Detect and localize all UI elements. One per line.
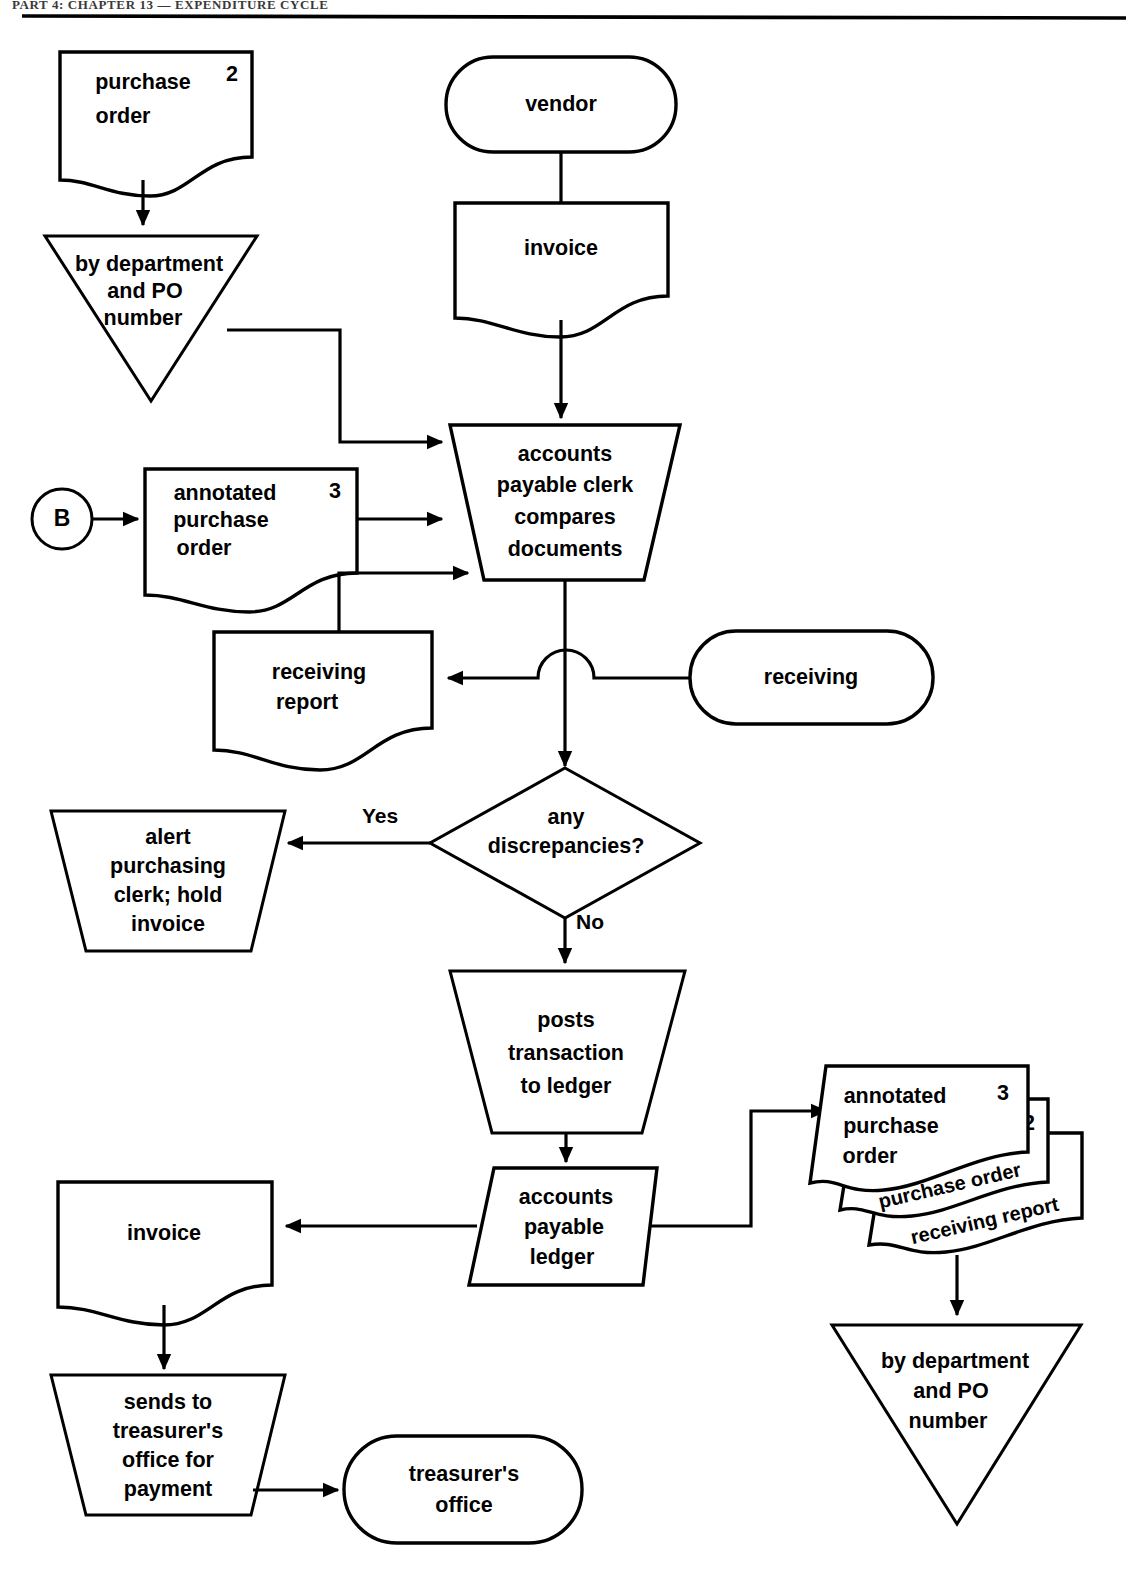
copy-number-badge: 2	[226, 62, 238, 86]
node-file-right-triangle[interactable]: by department and PO number	[832, 1325, 1081, 1524]
node-label-line-1: any	[547, 805, 584, 829]
node-label-line-1: treasurer's	[409, 1462, 519, 1486]
header-rule	[22, 16, 1126, 18]
node-label-line-2: report	[276, 690, 338, 714]
edge-receiving-to-receiving-report	[448, 650, 690, 678]
edge-label-yes: Yes	[362, 804, 398, 827]
document-shape	[58, 1182, 272, 1325]
node-sends-treasurer[interactable]: sends to treasurer's office for payment	[51, 1375, 285, 1515]
node-receiving-report-document[interactable]: receiving report	[214, 632, 432, 770]
edge-file-left-to-ap-clerk	[227, 330, 442, 442]
node-label-line-2: order	[96, 104, 152, 128]
node-label-line-2: discrepancies?	[488, 834, 645, 858]
node-alert-purchasing-clerk[interactable]: alert purchasing clerk; hold invoice	[51, 811, 285, 951]
node-label-line-1: posts	[537, 1008, 594, 1032]
terminal-shape	[344, 1436, 582, 1543]
copy-number-badge: 3	[329, 479, 341, 503]
node-label-line-3: order	[177, 536, 233, 560]
node-label: invoice	[524, 236, 598, 260]
node-label-line-3: clerk; hold	[114, 883, 223, 907]
node-purchase-order-document[interactable]: purchase order 2	[60, 52, 252, 196]
node-label: invoice	[127, 1221, 201, 1245]
node-label-line-2: and PO	[913, 1379, 988, 1403]
flowchart-page: PART 4: CHAPTER 13 — EXPENDITURE CYCLE p…	[0, 0, 1140, 1584]
node-label-line-3: compares	[514, 505, 616, 529]
node-label-line-2: transaction	[508, 1041, 624, 1065]
node-label-line-3: office for	[122, 1448, 215, 1472]
node-label-line-1: by department	[881, 1349, 1029, 1373]
node-label: vendor	[525, 92, 597, 116]
edge-ledger-to-doc-stack	[649, 1111, 826, 1226]
node-label-line-1: by department	[75, 252, 223, 276]
node-ap-clerk-compares[interactable]: accounts payable clerk compares document…	[450, 425, 680, 580]
node-label-line-3: ledger	[530, 1245, 595, 1269]
node-label: receiving	[764, 665, 858, 689]
node-label-line-2: purchasing	[110, 854, 226, 878]
node-label-line-4: documents	[508, 537, 623, 561]
node-label-line-1: receiving	[272, 660, 366, 684]
node-receiving-terminal[interactable]: receiving	[690, 631, 933, 724]
page-header-text: PART 4: CHAPTER 13 — EXPENDITURE CYCLE	[12, 0, 329, 12]
node-file-left-triangle[interactable]: by department and PO number	[45, 236, 257, 401]
node-treasurers-office-terminal[interactable]: treasurer's office	[344, 1436, 582, 1543]
flowchart-canvas: PART 4: CHAPTER 13 — EXPENDITURE CYCLE p…	[0, 0, 1140, 1584]
node-connector-b[interactable]: B	[32, 489, 92, 549]
node-label-line-3: number	[909, 1409, 988, 1433]
node-label-line-2: purchase	[173, 508, 269, 532]
node-label-line-1: purchase	[95, 70, 191, 94]
node-label-line-2: and PO	[107, 279, 182, 303]
node-label-line-3: to ledger	[521, 1074, 612, 1098]
node-label-line-2: purchase	[843, 1114, 939, 1138]
node-label-line-1: sends to	[124, 1390, 212, 1414]
node-document-stack[interactable]: receiving report 2 purchase order annota…	[810, 1066, 1082, 1253]
node-label-line-1: annotated	[174, 481, 277, 505]
node-any-discrepancies-decision[interactable]: any discrepancies?	[430, 768, 700, 918]
node-label-line-3: order	[843, 1144, 899, 1168]
node-label-line-1: accounts	[519, 1185, 613, 1209]
node-annotated-purchase-order[interactable]: annotated purchase order 3	[145, 469, 357, 612]
node-label-line-2: office	[435, 1493, 492, 1517]
stack-copy-number-3: 3	[997, 1081, 1009, 1105]
node-invoice-bottom-document[interactable]: invoice	[58, 1182, 272, 1325]
node-label-line-1: accounts	[518, 442, 612, 466]
node-label-line-3: number	[104, 306, 183, 330]
node-label-line-4: payment	[124, 1477, 212, 1501]
node-vendor-terminal[interactable]: vendor	[446, 57, 676, 152]
node-label-line-2: treasurer's	[113, 1419, 223, 1443]
node-label-line-4: invoice	[131, 912, 205, 936]
node-ap-ledger-parallelogram[interactable]: accounts payable ledger	[469, 1168, 657, 1285]
node-label-line-2: payable clerk	[497, 473, 633, 497]
edge-receiving-report-to-ap-clerk	[339, 573, 468, 633]
edge-label-no: No	[576, 910, 604, 933]
node-label-line-2: payable	[524, 1215, 604, 1239]
node-invoice-top-document[interactable]: invoice	[455, 203, 668, 337]
node-posts-transaction[interactable]: posts transaction to ledger	[450, 971, 685, 1133]
connector-letter-label: B	[54, 505, 71, 531]
node-label-line-1: alert	[145, 825, 190, 849]
document-shape	[455, 203, 668, 337]
node-label-line-1: annotated	[844, 1084, 947, 1108]
